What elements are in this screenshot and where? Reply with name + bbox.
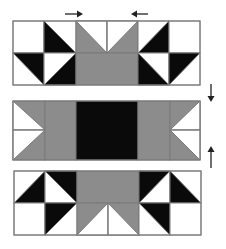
- quilt-diagram: [0, 0, 226, 249]
- arrow-up-right: [208, 146, 215, 168]
- arrow-left-top: [131, 11, 148, 18]
- top-row: [13, 21, 200, 85]
- arrow-down-right: [208, 84, 215, 102]
- arrow-right-top: [65, 11, 83, 18]
- middle-row: [13, 101, 200, 160]
- bottom-row: [14, 171, 201, 235]
